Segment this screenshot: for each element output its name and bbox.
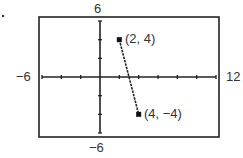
ymin-label: −6: [89, 141, 104, 154]
plot-svg: [0, 0, 243, 158]
xmax-label: 12: [226, 70, 240, 83]
point-label-1: (2, 4): [125, 32, 155, 45]
bullet-dot: [2, 15, 4, 17]
xmin-label: −6: [16, 70, 31, 83]
point-label-2: (4, −4): [144, 107, 182, 120]
ymax-label: 6: [94, 2, 101, 15]
